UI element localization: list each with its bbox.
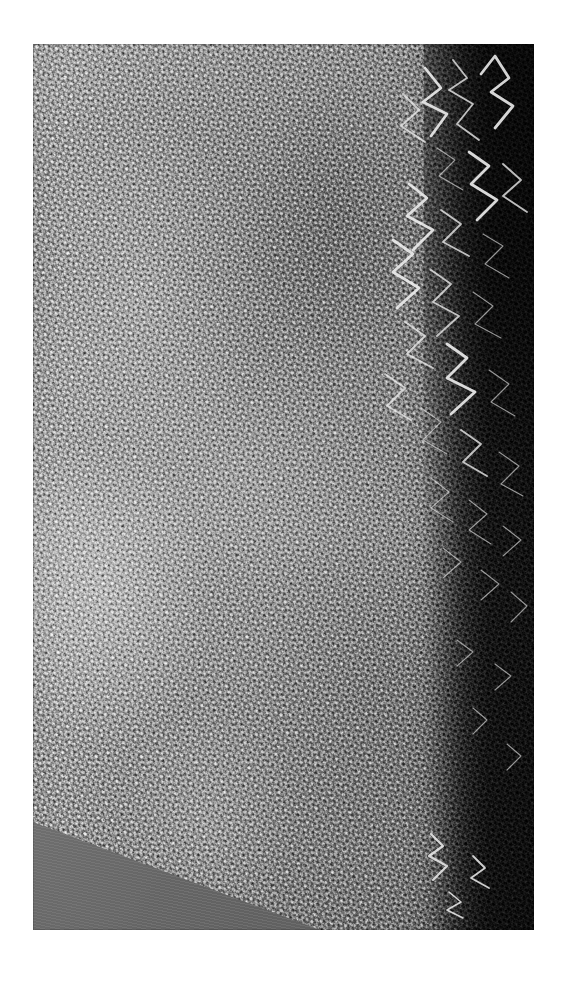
print-softening-layer <box>33 44 534 930</box>
page-canvas <box>0 0 567 982</box>
micrograph-plate <box>33 44 534 930</box>
